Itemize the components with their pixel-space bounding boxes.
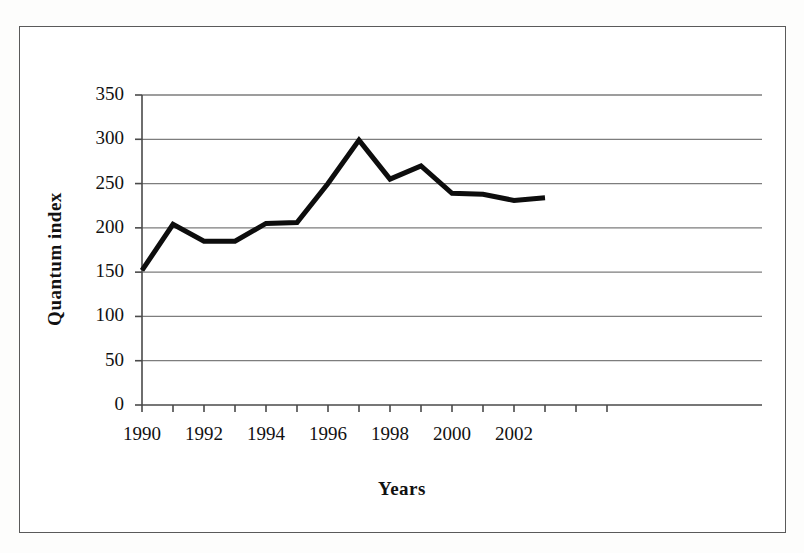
x-axis-ticks-group <box>142 405 607 412</box>
y-axis-ticks-group <box>135 95 142 405</box>
y-axis-tick-label: 250 <box>64 172 124 194</box>
y-axis-tick-label: 100 <box>64 304 124 326</box>
data-series-line <box>142 140 545 270</box>
y-axis-tick-label: 200 <box>64 216 124 238</box>
y-axis-tick-label: 150 <box>64 260 124 282</box>
x-axis-title: Years <box>0 478 804 500</box>
y-axis-tick-label: 0 <box>64 393 124 415</box>
y-axis-title: Quantum index <box>44 144 66 374</box>
chart-page: 050100150200250300350 199019921994199619… <box>0 0 804 553</box>
gridlines-group <box>142 95 762 361</box>
y-axis-tick-label: 50 <box>64 349 124 371</box>
y-axis-tick-label: 350 <box>64 83 124 105</box>
y-axis-tick-label: 300 <box>64 127 124 149</box>
x-axis-tick-label: 2002 <box>474 423 554 445</box>
